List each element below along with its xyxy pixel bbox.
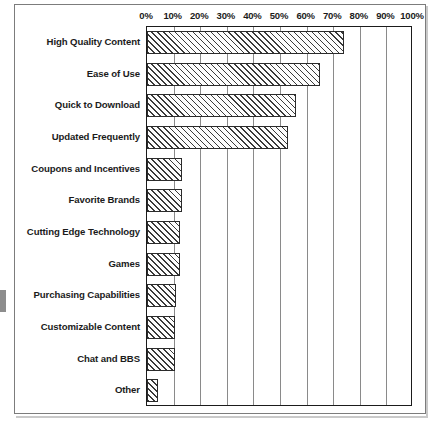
x-tick-label: 70% bbox=[323, 10, 341, 21]
bar-row bbox=[147, 27, 411, 59]
x-tick-label: 40% bbox=[243, 10, 261, 21]
bar-row bbox=[147, 217, 411, 249]
bar-row bbox=[147, 375, 411, 407]
y-category-label: Games bbox=[20, 258, 140, 269]
bar-row bbox=[147, 59, 411, 91]
x-tick-label: 90% bbox=[376, 10, 394, 21]
x-tick-label: 0% bbox=[139, 10, 152, 21]
bar bbox=[147, 126, 288, 149]
y-category-label: Other bbox=[20, 384, 140, 395]
x-tick-label: 80% bbox=[350, 10, 368, 21]
y-category-label: High Quality Content bbox=[20, 36, 140, 47]
bar bbox=[147, 221, 180, 244]
bar bbox=[147, 379, 158, 402]
x-axis-tick-labels: 0%10%20%30%40%50%60%70%80%90%100% bbox=[146, 10, 412, 24]
bar bbox=[147, 316, 175, 339]
x-tick-label: 20% bbox=[190, 10, 208, 21]
bar bbox=[147, 158, 182, 181]
bar bbox=[147, 284, 176, 307]
horizontal-bar-chart: 0%10%20%30%40%50%60%70%80%90%100% High Q… bbox=[0, 0, 436, 427]
x-tick-label: 60% bbox=[296, 10, 314, 21]
x-tick-label: 10% bbox=[163, 10, 181, 21]
y-category-label: Quick to Download bbox=[20, 99, 140, 110]
y-category-label: Ease of Use bbox=[20, 68, 140, 79]
y-category-label: Chat and BBS bbox=[20, 353, 140, 364]
bar-row bbox=[147, 280, 411, 312]
x-tick-label: 100% bbox=[400, 10, 424, 21]
bar-row bbox=[147, 312, 411, 344]
y-category-label: Cutting Edge Technology bbox=[20, 226, 140, 237]
y-category-label: Purchasing Capabilities bbox=[20, 289, 140, 300]
bar bbox=[147, 31, 344, 54]
x-tick-label: 50% bbox=[270, 10, 288, 21]
bar bbox=[147, 253, 180, 276]
bar-row bbox=[147, 344, 411, 376]
plot-area bbox=[146, 26, 412, 406]
y-axis-category-labels: High Quality ContentEase of UseQuick to … bbox=[20, 26, 140, 406]
y-category-label: Favorite Brands bbox=[20, 194, 140, 205]
bar bbox=[147, 63, 320, 86]
bar-row bbox=[147, 90, 411, 122]
bar bbox=[147, 94, 296, 117]
bar bbox=[147, 348, 175, 371]
y-category-label: Updated Frequently bbox=[20, 131, 140, 142]
bar-row bbox=[147, 249, 411, 281]
x-tick-label: 30% bbox=[217, 10, 235, 21]
bar-row bbox=[147, 154, 411, 186]
y-category-label: Customizable Content bbox=[20, 321, 140, 332]
bar bbox=[147, 189, 182, 212]
bar-series bbox=[147, 27, 411, 405]
y-category-label: Coupons and Incentives bbox=[20, 163, 140, 174]
bar-row bbox=[147, 122, 411, 154]
bar-row bbox=[147, 185, 411, 217]
